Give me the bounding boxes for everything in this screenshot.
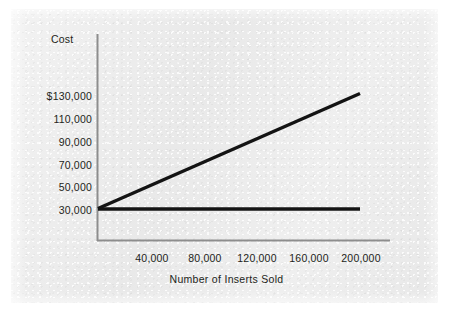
series-line-total-cost [98,94,360,209]
chart-figure: Cost $130,000 110,000 90,000 70,000 50,0… [0,0,453,317]
y-tick-label-110000: 110,000 [24,113,92,125]
y-tick-label-50000: 50,000 [24,181,92,193]
x-tick-label-200000: 200,000 [326,252,396,264]
y-axis-title: Cost [51,33,73,45]
y-tick-label-30000: 30,000 [24,204,92,216]
y-tick-label-70000: 70,000 [24,159,92,171]
x-axis-title: Number of Inserts Sold [0,273,453,285]
y-tick-label-130000: $130,000 [24,90,92,102]
y-tick-label-90000: 90,000 [24,136,92,148]
